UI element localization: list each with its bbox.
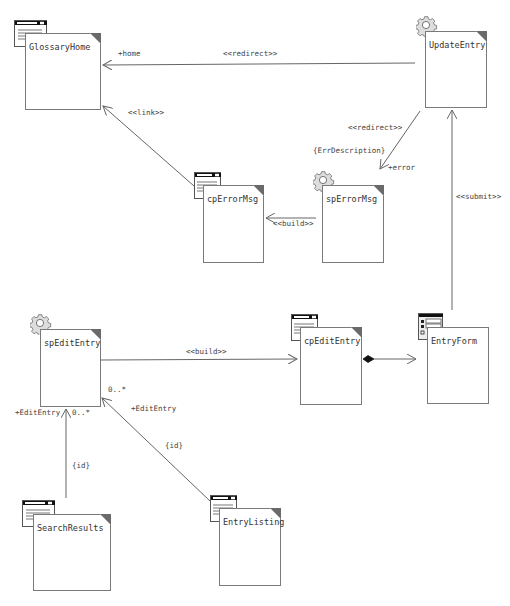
node-name: cpEditEntry — [304, 336, 360, 346]
node-glossary-home[interactable]: GlossaryHome — [25, 33, 101, 110]
role-edit-entry-listing-label: +EditEntry — [131, 404, 176, 413]
role-error-label: +error — [388, 163, 415, 172]
constraint-err-description-label: {ErrDescription} — [313, 146, 385, 155]
stereotype-build-edit-label: <<build>> — [186, 347, 227, 356]
edge-listing-edit[interactable] — [102, 398, 210, 501]
node-name: EntryListing — [223, 517, 284, 527]
stereotype-redirect-label: <<redirect>> — [223, 49, 277, 58]
node-update-entry[interactable]: UpdateEntry — [425, 31, 487, 108]
node-search-results[interactable]: SearchResults — [33, 514, 111, 591]
node-name: spErrorMsg — [326, 194, 377, 204]
edge-link-glossary[interactable] — [103, 106, 194, 186]
node-cp-error-msg[interactable]: cpErrorMsg — [203, 185, 264, 263]
role-edit-entry-search-label: +EditEntry — [15, 408, 60, 417]
node-name: EntryForm — [431, 336, 477, 346]
node-sp-error-msg[interactable]: spErrorMsg — [322, 185, 384, 263]
role-home-label: +home — [118, 49, 141, 58]
stereotype-submit-label: <<submit>> — [456, 192, 501, 201]
composition-diamond-icon — [363, 356, 374, 363]
node-name: SearchResults — [37, 523, 104, 533]
stereotype-redirect-error-label: <<redirect>> — [348, 123, 402, 132]
multiplicity-listing-label: 0..* — [108, 385, 126, 394]
edge-redirect-error[interactable] — [380, 111, 420, 169]
multiplicity-search-label: 0..* — [72, 408, 90, 417]
node-name: GlossaryHome — [29, 42, 90, 52]
node-name: spEditEntry — [44, 338, 100, 348]
node-entry-listing[interactable]: EntryListing — [219, 508, 281, 586]
folded-corner-icon — [90, 33, 101, 44]
edge-build-edit[interactable] — [101, 359, 297, 360]
node-sp-edit-entry[interactable]: spEditEntry — [40, 329, 101, 407]
stereotype-build-error-label: <<build>> — [273, 219, 314, 228]
constraint-id-search-label: {id} — [72, 461, 90, 470]
stereotype-link-label: <<link>> — [128, 108, 164, 117]
edge-redirect-home[interactable] — [103, 63, 415, 65]
node-entry-form[interactable]: EntryForm — [427, 327, 489, 404]
node-cp-edit-entry[interactable]: cpEditEntry — [300, 327, 362, 405]
node-name: cpErrorMsg — [207, 194, 258, 204]
node-name: UpdateEntry — [429, 40, 485, 50]
constraint-id-listing-label: {id} — [165, 441, 183, 450]
